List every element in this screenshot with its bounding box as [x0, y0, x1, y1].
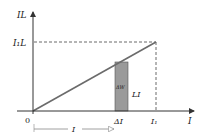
- linear-flux-line: [33, 42, 156, 111]
- x-tick-delta-i: ΔI: [113, 117, 124, 126]
- strip-label: ΔW: [115, 84, 126, 90]
- y-axis-label: IL: [16, 10, 27, 20]
- x-axis-label: I: [187, 116, 192, 126]
- strip-height-label: LI: [131, 90, 141, 99]
- diagram-svg: IL I₁L 0 ΔI I₁ I ΔW LI I: [0, 0, 205, 140]
- y-tick-label: I₁L: [12, 38, 26, 48]
- x-tick-i1: I₁: [150, 117, 157, 126]
- bottom-arrow-label: I: [71, 125, 76, 134]
- origin-label: 0: [25, 116, 30, 125]
- inductor-energy-diagram: IL I₁L 0 ΔI I₁ I ΔW LI I: [0, 0, 205, 140]
